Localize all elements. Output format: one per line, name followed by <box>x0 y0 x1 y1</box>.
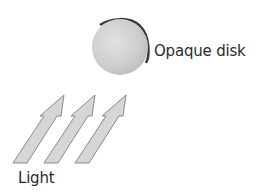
disk-face <box>92 19 148 75</box>
opaque-disk <box>92 19 148 75</box>
disk-label: Opaque disk <box>154 44 246 59</box>
diagram-graphic <box>0 0 263 193</box>
light-arrows <box>13 95 126 163</box>
diagram: Opaque disk Light <box>0 0 263 193</box>
light-label: Light <box>18 171 54 186</box>
